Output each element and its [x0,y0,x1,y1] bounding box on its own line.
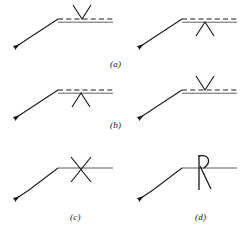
panel-a [14,5,113,48]
panel-a-caret-down-icon [73,5,91,19]
panel-label-d: (d) [195,212,206,222]
panel-label-a: (a) [110,59,121,69]
panel-a-right [138,19,237,48]
panel-b [14,90,113,119]
panel-b-right-caret-down-icon [196,76,214,90]
panel-c-arrow-line [14,168,58,200]
panel-a-right-arrow-line [138,19,182,48]
panel-c [14,157,113,200]
panel-a-right-caret-up-icon [196,22,214,36]
panel-d-diagonal-stroke [200,166,211,189]
panel-a-arrow-line [14,19,58,48]
panel-d [138,155,237,200]
panel-b-right-arrow-line [138,90,182,119]
panel-label-c: (c) [70,212,81,222]
panel-b-right [138,76,237,119]
panel-d-arrow-line [138,168,182,200]
panel-b-caret-up-icon [72,93,90,107]
panel-label-b: (b) [110,120,121,130]
panel-b-arrow-line [14,90,58,119]
four-panel-diagram [0,0,246,241]
